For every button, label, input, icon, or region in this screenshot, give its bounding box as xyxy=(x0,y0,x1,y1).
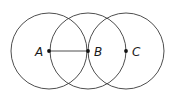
point-b xyxy=(86,49,90,53)
label-c: C xyxy=(132,45,141,59)
geometry-diagram: A B C xyxy=(0,0,170,99)
point-a xyxy=(47,49,51,53)
label-b: B xyxy=(94,45,102,59)
point-c xyxy=(124,49,128,53)
label-a: A xyxy=(34,45,43,59)
